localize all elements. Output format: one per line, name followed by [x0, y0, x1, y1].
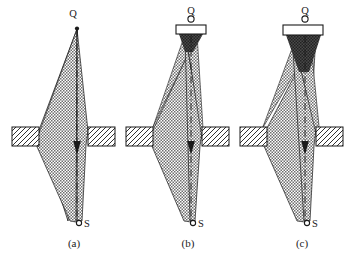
- panel-b: Q S (b): [126, 5, 229, 250]
- panel-b-source-marker: [188, 16, 194, 22]
- ray-diagram-figure: Q S (a) Q: [0, 0, 344, 261]
- panel-a-aperture-right: [88, 127, 115, 146]
- panel-a-aperture-left: [12, 127, 39, 146]
- panel-c-source-label: Q: [301, 5, 309, 16]
- panel-a-image-point-marker: [76, 220, 81, 225]
- panel-b-image-point-marker: [190, 220, 195, 225]
- panel-c-caption: (c): [296, 237, 309, 250]
- panel-c-source-box: [283, 25, 323, 35]
- ray-diagram-svg: Q S (a) Q: [0, 0, 344, 261]
- panel-b-source-label: Q: [187, 5, 195, 16]
- panel-c-image-point-label: S: [312, 218, 318, 229]
- panel-b-caption: (b): [182, 237, 195, 250]
- panel-a-image-point-label: S: [84, 218, 90, 229]
- panel-a-caption: (a): [68, 237, 81, 250]
- panel-a-source-marker: [75, 26, 79, 30]
- panel-b-aperture-left: [126, 127, 153, 146]
- panel-c: Q S (c): [240, 5, 343, 250]
- panel-b-source-box: [176, 25, 206, 34]
- panel-a: Q S (a): [12, 8, 115, 250]
- panel-b-aperture-right: [202, 127, 229, 146]
- panel-a-right-beam: [77, 29, 88, 221]
- panel-c-aperture-right: [316, 127, 343, 146]
- panel-c-image-point-marker: [304, 220, 309, 225]
- panel-c-aperture-left: [240, 127, 267, 146]
- panel-c-source-marker: [302, 16, 308, 22]
- panel-a-source-label: Q: [69, 8, 77, 19]
- panel-b-image-point-label: S: [198, 218, 204, 229]
